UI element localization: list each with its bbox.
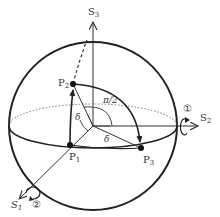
angle-tick-1 [88, 115, 93, 126]
s2-label: S2 [200, 112, 211, 125]
p1-label: P1 [69, 151, 80, 164]
poincare-sphere-diagram: S3 S2 S1 P1 P2 P3 δ δ π/2 ① ② [0, 0, 220, 217]
s3-label: S3 [88, 6, 99, 19]
p3-label: P3 [143, 154, 154, 167]
rotation-marker-2: ② [32, 199, 41, 210]
p2-label: P2 [58, 77, 69, 90]
rotation-arrowhead-s2-icon [185, 117, 190, 123]
point-p1 [67, 142, 73, 148]
dashed-meridian [73, 40, 87, 84]
rotation-marker-1: ① [183, 103, 192, 114]
delta-vertical-label: δ [75, 112, 80, 122]
arc-p1-p2 [70, 90, 73, 145]
s1-label: S1 [11, 199, 22, 212]
point-p3 [138, 145, 144, 151]
equator-front [9, 126, 177, 148]
delta-horizontal-label: δ [104, 134, 109, 144]
angle-arc-delta-vertical [80, 120, 88, 131]
radius-to-p3 [93, 126, 141, 148]
right-angle-label: π/2 [102, 95, 118, 105]
rotation-arrow-s1-icon [26, 187, 40, 199]
point-p2 [70, 81, 76, 87]
